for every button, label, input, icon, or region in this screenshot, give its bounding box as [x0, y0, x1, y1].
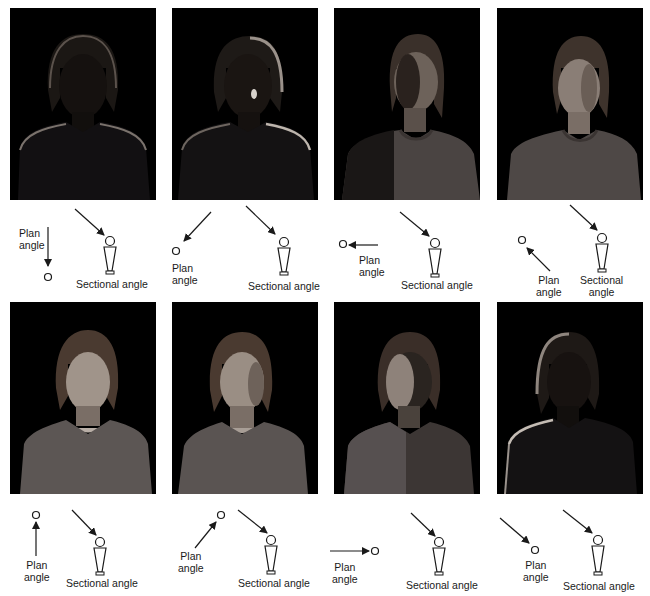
- figure-icon: [104, 237, 116, 275]
- lighting-diagram-4: Plan angle Sectional angle: [490, 200, 650, 300]
- plan-angle-label: Plan angle: [19, 227, 45, 251]
- portrait-silhouette: [497, 8, 643, 200]
- lighting-diagram-2: Plan angle Sectional angle: [162, 200, 324, 300]
- subject-circle-icon: [340, 241, 347, 248]
- subject-circle-icon: [45, 274, 52, 281]
- plan-arrow-icon: [195, 522, 216, 548]
- sectional-angle-label: Sectional angle: [66, 577, 138, 589]
- portrait-photo-1: [10, 8, 156, 200]
- portrait-photo-3: [334, 8, 480, 200]
- figure-icon: [265, 536, 277, 575]
- subject-circle-icon: [532, 547, 539, 554]
- sectional-angle-label: Sectional angle: [238, 577, 310, 589]
- lighting-diagram-1: Plan angle Sectional angle: [0, 200, 162, 300]
- portrait-photo-4: [497, 8, 643, 200]
- portrait-silhouette: [172, 8, 318, 200]
- portrait-photo-5: [10, 302, 156, 494]
- plan-angle-label: Plan angle: [523, 559, 549, 583]
- portrait-silhouette: [172, 302, 318, 494]
- portrait-silhouette: [10, 8, 156, 200]
- subject-circle-icon: [218, 512, 225, 519]
- plan-angle-label: Plan angle: [536, 274, 562, 298]
- sectional-angle-label: Sectional angle: [563, 580, 635, 592]
- plan-angle-label: Plan angle: [332, 561, 358, 585]
- sectional-arrow-icon: [246, 206, 275, 234]
- figure-icon: [592, 536, 604, 576]
- plan-angle-label: Plan angle: [178, 550, 204, 574]
- portrait-silhouette: [334, 8, 480, 200]
- plan-angle-label: Plan angle: [172, 262, 198, 286]
- portrait-photo-7: [334, 302, 480, 494]
- lighting-diagram-5: Plan angle Sectional angle: [0, 500, 162, 596]
- sectional-arrow-icon: [400, 212, 429, 236]
- figure-icon: [429, 239, 441, 278]
- lighting-diagram-6: Plan angle Sectional angle: [162, 500, 324, 596]
- figure-icon: [278, 238, 290, 276]
- sectional-angle-label: Sectional angle: [76, 278, 148, 290]
- figure-icon: [596, 234, 608, 273]
- lighting-diagram-3: Plan angle Sectional angle: [325, 200, 487, 300]
- plan-arrow-icon: [527, 248, 550, 271]
- plan-arrow-icon: [500, 518, 529, 543]
- portrait-silhouette: [10, 302, 156, 494]
- plan-angle-label: Plan angle: [24, 559, 50, 583]
- portrait-photo-2: [172, 8, 318, 200]
- sectional-arrow-icon: [563, 510, 592, 533]
- sectional-angle-label: Sectional angle: [401, 279, 473, 291]
- lighting-diagram-7: Plan angle Sectional angle: [325, 500, 487, 596]
- subject-circle-icon: [33, 512, 40, 519]
- portrait-photo-6: [172, 302, 318, 494]
- figure-icon: [433, 538, 445, 576]
- figure-icon: [94, 538, 106, 576]
- sectional-angle-label: Sectional angle: [248, 280, 320, 292]
- portrait-silhouette: [334, 302, 480, 494]
- sectional-arrow-icon: [72, 510, 96, 535]
- sectional-arrow-icon: [411, 513, 435, 536]
- lighting-diagram-8: Plan angle Sectional angle: [485, 500, 647, 596]
- subject-circle-icon: [519, 237, 526, 244]
- subject-circle-icon: [372, 548, 379, 555]
- sectional-arrow-icon: [238, 510, 267, 533]
- plan-arrow-icon: [184, 212, 211, 241]
- sectional-arrow-icon: [75, 209, 104, 235]
- sectional-arrow-icon: [570, 205, 597, 230]
- portrait-silhouette: [497, 302, 643, 494]
- sectional-angle-label: Sectional angle: [580, 274, 623, 298]
- portrait-photo-8: [497, 302, 643, 494]
- subject-circle-icon: [173, 248, 180, 255]
- sectional-angle-label: Sectional angle: [406, 579, 478, 591]
- plan-angle-label: Plan angle: [359, 254, 385, 278]
